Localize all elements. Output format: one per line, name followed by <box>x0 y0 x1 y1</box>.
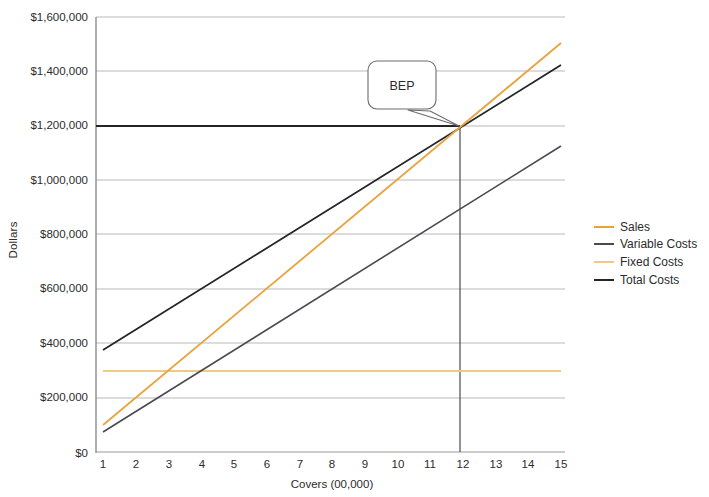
x-tick-label: 8 <box>329 458 335 470</box>
x-tick-label: 13 <box>490 458 503 470</box>
x-tick-label: 12 <box>457 458 470 470</box>
x-tick-label: 9 <box>362 458 368 470</box>
y-tick-label: $800,000 <box>40 228 88 240</box>
x-axis-tick-labels: 1 2 3 4 5 6 7 8 9 10 11 12 13 14 15 <box>100 458 568 470</box>
x-tick-label: 2 <box>133 458 139 470</box>
y-tick-label: $1,000,000 <box>30 174 88 186</box>
y-axis-tick-labels: $1,600,000 $1,400,000 $1,200,000 $1,000,… <box>30 11 88 459</box>
x-tick-label: 7 <box>297 458 303 470</box>
y-tick-label: $1,400,000 <box>30 65 88 77</box>
x-tick-label: 6 <box>264 458 270 470</box>
y-tick-label: $1,600,000 <box>30 11 88 23</box>
bep-callout-label: BEP <box>389 79 414 93</box>
legend-label-fixed-costs: Fixed Costs <box>620 255 683 269</box>
x-tick-label: 4 <box>199 458 206 470</box>
series-line-total-costs <box>103 65 561 350</box>
legend-label-sales: Sales <box>620 220 650 234</box>
y-tick-label: $200,000 <box>40 391 88 403</box>
y-tick-label: $0 <box>75 447 88 459</box>
x-axis-title: Covers (00,000) <box>291 478 374 490</box>
x-tick-label: 1 <box>100 458 106 470</box>
y-tick-label: $1,200,000 <box>30 119 88 131</box>
bep-callout-tail <box>408 110 459 126</box>
y-tick-label: $600,000 <box>40 282 88 294</box>
break-even-chart: Dollars $1,600,000 $1,400,000 $1,200,000… <box>0 0 709 497</box>
x-tick-label: 5 <box>231 458 237 470</box>
x-tick-label: 15 <box>555 458 568 470</box>
chart-canvas: $1,600,000 $1,400,000 $1,200,000 $1,000,… <box>0 0 709 497</box>
x-tick-label: 3 <box>166 458 172 470</box>
x-tick-label: 11 <box>424 458 436 470</box>
legend-label-total-costs: Total Costs <box>620 273 679 287</box>
chart-legend: Sales Variable Costs Fixed Costs Total C… <box>594 220 697 287</box>
legend-label-variable-costs: Variable Costs <box>620 237 697 251</box>
x-tick-label: 10 <box>392 458 405 470</box>
y-tick-label: $400,000 <box>40 337 88 349</box>
x-tick-label: 14 <box>522 458 535 470</box>
